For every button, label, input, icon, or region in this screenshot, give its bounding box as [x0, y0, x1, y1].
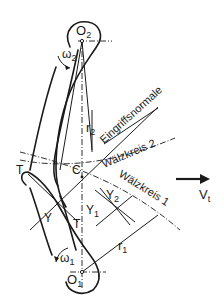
- upper-tooth-flank-outer: [30, 67, 56, 170]
- pitch-point-c: [81, 176, 84, 179]
- label-vt: Vt: [199, 187, 211, 204]
- label-y: Y: [44, 211, 52, 225]
- label-r2: r2: [86, 120, 95, 137]
- label-c: C: [72, 163, 81, 177]
- lower-tooth-outline: [22, 172, 99, 293]
- label-line-of-action: Eingriffsnormale: [97, 84, 164, 146]
- o2-center-point: [80, 39, 83, 42]
- gear-meshing-diagram: O2 ω2 r2 Eingriffsnormale Wälzkreis 2 Wä…: [0, 0, 224, 307]
- label-o2: O2: [76, 23, 91, 40]
- label-o1: O1: [67, 272, 82, 289]
- o1-center-point: [80, 270, 83, 273]
- label-r1: r1: [118, 238, 127, 255]
- label-t-left: T: [16, 163, 24, 177]
- tangent-line: [28, 174, 78, 222]
- velocity-arrowhead: [200, 174, 210, 184]
- label-omega2: ω2: [62, 47, 76, 63]
- label-omega1: ω1: [60, 251, 74, 267]
- label-y1: Y1: [86, 203, 99, 219]
- label-y2: Y2: [106, 188, 119, 204]
- label-t-right: T: [73, 217, 81, 231]
